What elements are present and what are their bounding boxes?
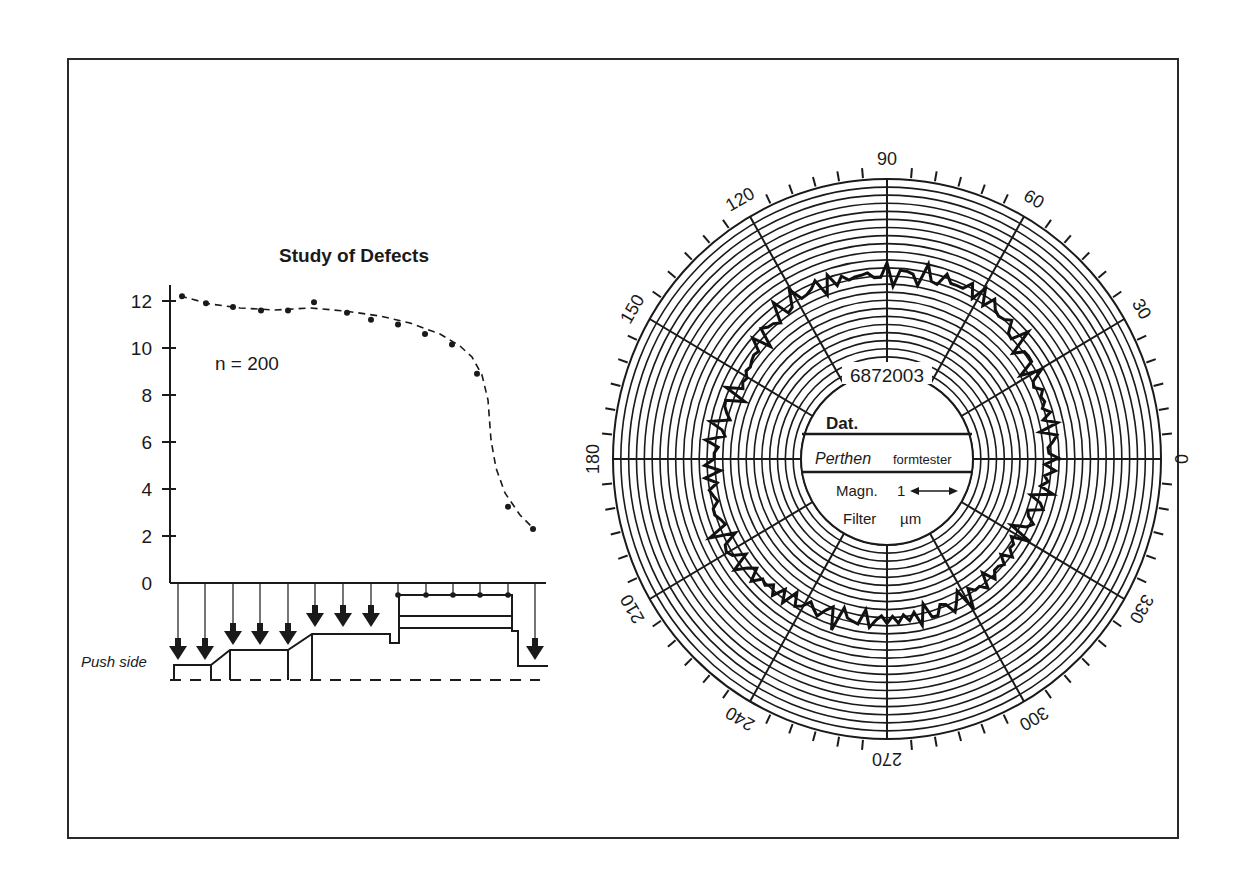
angle-label: 60 <box>1020 186 1047 213</box>
angle-label: 30 <box>1128 295 1155 322</box>
chart-number: 6872003 <box>850 365 924 386</box>
brand-label: Perthen <box>815 450 871 467</box>
unit-label: µm <box>900 510 921 527</box>
magnification-label: Magn. <box>836 482 878 499</box>
roundness-polar-chart: 0306090120150180210240270300330 6872003 … <box>0 0 1245 886</box>
angle-label: 240 <box>722 703 758 735</box>
angle-label: 330 <box>1125 591 1157 627</box>
angle-label: 90 <box>877 149 897 169</box>
angle-label: 0 <box>1171 454 1191 464</box>
angle-label: 120 <box>722 183 758 215</box>
device-label: formtester <box>893 452 952 467</box>
angle-label: 210 <box>616 591 648 627</box>
date-label: Dat. <box>826 414 858 433</box>
angle-label: 270 <box>872 749 902 769</box>
magnification-value: 1 <box>897 482 905 499</box>
angle-label: 150 <box>616 291 648 327</box>
angle-label: 180 <box>583 444 603 474</box>
angle-label: 300 <box>1016 703 1052 735</box>
filter-label: Filter <box>843 510 876 527</box>
